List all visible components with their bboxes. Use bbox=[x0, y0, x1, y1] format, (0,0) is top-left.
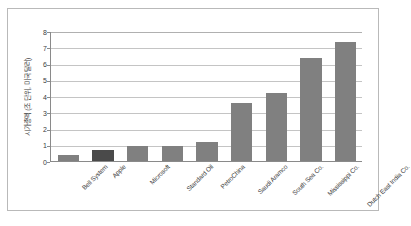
x-axis-tick-label: Microsoft bbox=[148, 163, 171, 186]
y-axis-tick-mark bbox=[47, 97, 50, 98]
y-axis-tick-label: 7 bbox=[34, 44, 47, 53]
bar bbox=[231, 103, 252, 162]
y-axis-title: 시가총액 (조 단위, 미국 달러) bbox=[21, 32, 34, 162]
y-axis-tick-label: 0 bbox=[34, 158, 47, 167]
y-axis-tick-label: 2 bbox=[34, 125, 47, 134]
y-axis-tick-label: 3 bbox=[34, 109, 47, 118]
x-axis-tick-label: Standard Oil bbox=[185, 163, 215, 193]
y-axis-tick-mark bbox=[47, 146, 50, 147]
y-axis-tick-label: 8 bbox=[34, 28, 47, 37]
y-axis-tick-label: 6 bbox=[34, 60, 47, 69]
y-axis-tick-label: 5 bbox=[34, 76, 47, 85]
y-axis-tick-mark bbox=[47, 162, 50, 163]
x-axis-tick-label: Saudi Aramco bbox=[256, 163, 289, 196]
y-axis-tick-mark bbox=[47, 65, 50, 66]
gridline bbox=[51, 32, 362, 33]
y-axis-tick-mark bbox=[47, 130, 50, 131]
bar bbox=[335, 42, 356, 161]
bar bbox=[196, 142, 217, 161]
bar bbox=[92, 150, 113, 161]
x-axis-tick-labels: Bell SystemAppleMicrosoftStandard OilPet… bbox=[50, 163, 362, 213]
y-axis-tick-mark bbox=[47, 48, 50, 49]
x-axis-tick-label: Apple bbox=[111, 163, 128, 180]
x-axis-tick-label: Bell System bbox=[81, 163, 110, 192]
y-axis-tick-mark bbox=[47, 113, 50, 114]
gridline bbox=[51, 48, 362, 49]
x-axis-tick-label: South Sea Co. bbox=[291, 163, 325, 197]
bar bbox=[266, 93, 287, 161]
bar bbox=[127, 146, 148, 161]
bar bbox=[300, 58, 321, 161]
y-axis-tick-label: 1 bbox=[34, 141, 47, 150]
bar bbox=[162, 146, 183, 161]
y-axis-tick-mark bbox=[47, 81, 50, 82]
x-axis-tick-label: PetroChina bbox=[219, 163, 247, 191]
x-axis-tick-label: Mississippi Co. bbox=[326, 163, 361, 198]
y-axis-tick-mark bbox=[47, 32, 50, 33]
bar bbox=[58, 155, 79, 161]
plot-area bbox=[50, 32, 362, 162]
y-axis-tick-labels: 012345678 bbox=[34, 32, 47, 162]
y-axis-tick-label: 4 bbox=[34, 93, 47, 102]
